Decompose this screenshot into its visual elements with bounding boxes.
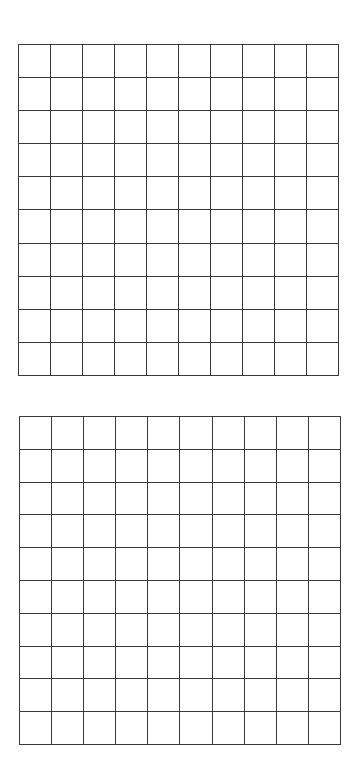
grid-cell: [275, 244, 307, 277]
grid-cell: [84, 450, 116, 483]
grid-cell: [51, 45, 83, 78]
grid-cell: [116, 417, 148, 450]
grid-cell: [307, 177, 339, 210]
grid-cell: [277, 548, 309, 581]
grid-cell: [180, 581, 212, 614]
grid-cell: [245, 515, 277, 548]
grid-cell: [83, 177, 115, 210]
grid-cell: [20, 548, 52, 581]
grid-cell: [147, 244, 179, 277]
grid-cell: [275, 210, 307, 243]
grid-cell: [19, 210, 51, 243]
grid-cell: [213, 647, 245, 680]
grid-cell: [52, 647, 84, 680]
grid-cell: [243, 177, 275, 210]
grid-cell: [83, 343, 115, 376]
grid-cell: [309, 450, 341, 483]
grid-cell: [84, 417, 116, 450]
grid-cell: [211, 210, 243, 243]
grid-cell: [19, 78, 51, 111]
grid-cell: [211, 111, 243, 144]
grid-cell: [211, 244, 243, 277]
grid-cell: [277, 614, 309, 647]
grid-cell: [83, 45, 115, 78]
grid-cell: [180, 417, 212, 450]
grid-cell: [84, 712, 116, 745]
grid-cell: [179, 343, 211, 376]
grid-cell: [83, 244, 115, 277]
grid-cell: [51, 277, 83, 310]
grid-cell: [211, 45, 243, 78]
grid-cell: [20, 483, 52, 516]
grid-cell: [180, 548, 212, 581]
grid-cell: [116, 515, 148, 548]
grid-cell: [51, 111, 83, 144]
grid-cell: [179, 244, 211, 277]
grid-cell: [147, 277, 179, 310]
grid-cell: [243, 111, 275, 144]
grid-cell: [116, 483, 148, 516]
grid-cell: [52, 417, 84, 450]
grid-cell: [179, 277, 211, 310]
grid-cell: [245, 614, 277, 647]
grid-cell: [84, 548, 116, 581]
grid-cell: [52, 515, 84, 548]
grid-cell: [213, 614, 245, 647]
grid-cell: [211, 177, 243, 210]
grid-cell: [147, 144, 179, 177]
grid-cell: [307, 244, 339, 277]
grid-cell: [179, 144, 211, 177]
grid-cell: [84, 515, 116, 548]
grid-cell: [180, 614, 212, 647]
blank-grid-top: [18, 44, 339, 376]
grid-cell: [309, 679, 341, 712]
grid-cell: [179, 45, 211, 78]
grid-cell: [20, 679, 52, 712]
grid-cell: [115, 177, 147, 210]
grid-cell: [84, 483, 116, 516]
grid-cell: [51, 78, 83, 111]
grid-cell: [19, 343, 51, 376]
grid-cell: [245, 647, 277, 680]
grid-cell: [180, 515, 212, 548]
grid-cell: [275, 277, 307, 310]
grid-cell: [275, 310, 307, 343]
grid-cell: [148, 712, 180, 745]
grid-cell: [83, 111, 115, 144]
grid-cell: [115, 78, 147, 111]
grid-cell: [83, 144, 115, 177]
grid-cell: [52, 548, 84, 581]
grid-cell: [275, 78, 307, 111]
blank-grid-bottom: [19, 416, 341, 745]
grid-cell: [147, 310, 179, 343]
grid-cell: [243, 45, 275, 78]
grid-cell: [309, 647, 341, 680]
grid-cell: [243, 310, 275, 343]
grid-cell: [115, 111, 147, 144]
grid-cell: [213, 581, 245, 614]
grid-cell: [243, 244, 275, 277]
grid-cell: [275, 343, 307, 376]
grid-cell: [213, 515, 245, 548]
grid-cell: [20, 515, 52, 548]
grid-cell: [83, 78, 115, 111]
grid-cell: [245, 450, 277, 483]
grid-cell: [211, 277, 243, 310]
grid-cell: [147, 343, 179, 376]
grid-cell: [148, 581, 180, 614]
grid-cell: [213, 483, 245, 516]
grid-cell: [51, 177, 83, 210]
grid-cell: [19, 45, 51, 78]
grid-cell: [307, 45, 339, 78]
grid-cell: [180, 483, 212, 516]
grid-cell: [52, 581, 84, 614]
grid-cell: [211, 78, 243, 111]
grid-cell: [179, 310, 211, 343]
grid-cell: [275, 144, 307, 177]
grid-cell: [52, 679, 84, 712]
grid-cell: [213, 548, 245, 581]
grid-cell: [148, 515, 180, 548]
grid-cell: [148, 417, 180, 450]
grid-cell: [147, 210, 179, 243]
grid-cell: [243, 210, 275, 243]
